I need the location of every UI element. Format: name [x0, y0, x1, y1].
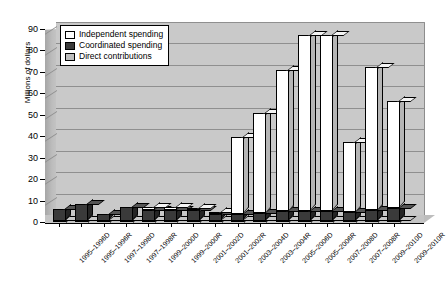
x-axis-tick [193, 223, 194, 227]
x-axis-tick [260, 223, 261, 227]
y-axis-tick [40, 158, 45, 159]
bar-segment [142, 210, 155, 221]
bar-segment [164, 207, 177, 210]
bar-segment [53, 209, 66, 221]
x-axis-tick [282, 223, 283, 227]
legend-item-coordinated-spending: Coordinated spending [65, 40, 163, 51]
bar-segment [365, 67, 378, 211]
y-axis-tick [40, 29, 45, 30]
chart-legend: Independent spending Coordinated spendin… [60, 25, 169, 66]
bar-segment [276, 211, 289, 221]
legend-label: Coordinated spending [79, 40, 162, 51]
x-axis-tick [104, 223, 105, 227]
y-axis-tick [40, 50, 45, 51]
x-axis-tick [305, 223, 306, 227]
bar-segment [164, 210, 177, 221]
bar-segment [387, 208, 400, 221]
y-axis-tick [40, 115, 45, 116]
x-axis-tick [171, 223, 172, 227]
bar-segment [320, 211, 333, 221]
x-axis-tick [372, 223, 373, 227]
legend-swatch-icon [65, 31, 75, 39]
y-axis-tick [40, 179, 45, 180]
x-axis-tick [349, 223, 350, 227]
bar-segment-side [356, 137, 361, 212]
bar-segment-side [244, 132, 249, 213]
bar-segment [97, 214, 110, 220]
x-axis-tick [148, 223, 149, 227]
legend-item-independent-spending: Independent spending [65, 29, 163, 40]
bar-segment [187, 208, 200, 210]
bar-segment [120, 207, 133, 221]
bar-segment [187, 210, 200, 221]
y-axis-tick-label: 10 [12, 197, 38, 206]
bar-segment [231, 214, 244, 220]
x-axis-tick [81, 223, 82, 227]
x-axis-tick [215, 223, 216, 227]
bar-segment [276, 70, 289, 212]
bar-segment-side [266, 108, 271, 213]
bar-segment [142, 207, 155, 210]
y-axis-tick-label: 30 [12, 154, 38, 163]
y-axis-tick [40, 72, 45, 73]
gridline [56, 22, 424, 23]
bar-segment [253, 213, 266, 221]
y-axis-tick-label: 0 [12, 218, 38, 227]
bar-segment [320, 35, 333, 211]
legend-swatch-icon [65, 42, 75, 50]
x-axis-tick [59, 223, 60, 227]
bar-segment [298, 35, 311, 211]
bar-segment-side [400, 96, 405, 207]
y-axis-tick [40, 93, 45, 94]
x-axis-tick [238, 223, 239, 227]
bar-segment [209, 214, 222, 220]
x-axis-tick [126, 223, 127, 227]
legend-label: Direct contributions [79, 51, 152, 62]
bar-segment-side [289, 65, 294, 210]
y-axis-tick [40, 136, 45, 137]
y-axis-tick [40, 201, 45, 202]
bar-segment-side [333, 30, 338, 210]
x-axis-line [45, 223, 424, 224]
y-axis-tick-label: 20 [12, 175, 38, 184]
bar-segment [365, 210, 378, 221]
bar-segment [343, 142, 356, 213]
bar-segment [343, 212, 356, 221]
bar-segment-side [311, 30, 316, 210]
bar-segment-side [378, 62, 383, 210]
legend-swatch-icon [65, 53, 75, 61]
bar-segment [75, 204, 88, 221]
bar-segment [387, 101, 400, 208]
x-axis-tick [327, 223, 328, 227]
legend-label: Independent spending [79, 29, 163, 40]
bar-segment [231, 137, 244, 214]
bar-segment [253, 113, 266, 214]
y-axis-title: Millions of dollars [23, 0, 32, 148]
x-axis-tick [394, 223, 395, 227]
bar-segment [298, 211, 311, 221]
bar-segment [209, 212, 222, 214]
legend-item-direct-contributions: Direct contributions [65, 51, 163, 62]
